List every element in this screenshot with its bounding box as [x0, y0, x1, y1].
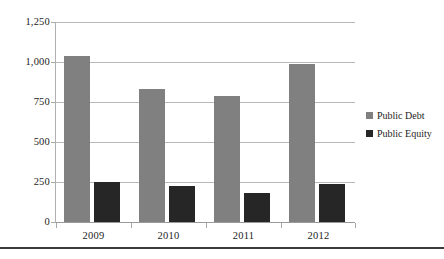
y-axis-tick-250	[51, 182, 55, 183]
bar-group-2012	[289, 22, 355, 222]
y-axis-label-1250: 1,250	[2, 17, 50, 27]
y-axis-label-0: 0	[2, 217, 50, 227]
y-axis-tick-750	[51, 102, 55, 103]
bar-2009-public-equity[interactable]	[94, 182, 120, 222]
x-axis-tick-3	[281, 223, 282, 228]
y-axis-labels: 1,250 1,000 750 500 250 0	[0, 0, 50, 259]
bar-2010-public-debt[interactable]	[139, 89, 165, 222]
legend-swatch-public-equity	[366, 130, 373, 137]
x-axis-label-2009: 2009	[56, 230, 131, 242]
legend-label-public-debt: Public Debt	[377, 110, 425, 121]
chart-legend: Public Debt Public Equity	[366, 108, 444, 144]
y-axis-tick-1250	[51, 22, 55, 23]
x-axis-label-2012: 2012	[281, 230, 356, 242]
y-axis-label-1000: 1,000	[2, 57, 50, 67]
x-axis-tick-end	[355, 223, 356, 228]
legend-item-public-debt[interactable]: Public Debt	[366, 108, 444, 123]
legend-item-public-equity[interactable]: Public Equity	[366, 126, 444, 141]
legend-swatch-public-debt	[366, 112, 373, 119]
y-axis-tick-500	[51, 142, 55, 143]
x-axis-label-2010: 2010	[131, 230, 206, 242]
legend-label-public-equity: Public Equity	[377, 128, 432, 139]
bar-groups	[56, 22, 355, 222]
bar-group-2010	[139, 22, 205, 222]
y-axis-label-750: 750	[2, 97, 50, 107]
bar-2012-public-equity[interactable]	[319, 184, 345, 222]
y-axis-label-500: 500	[2, 137, 50, 147]
bar-2011-public-debt[interactable]	[214, 96, 240, 222]
bar-2011-public-equity[interactable]	[244, 193, 270, 222]
footer-divider	[0, 247, 444, 249]
y-axis-label-250: 250	[2, 177, 50, 187]
x-axis-label-2011: 2011	[206, 230, 281, 242]
bar-chart-figure: 1,250 1,000 750 500 250 0	[0, 0, 444, 259]
bar-2009-public-debt[interactable]	[64, 56, 90, 222]
bar-2012-public-debt[interactable]	[289, 64, 315, 222]
bar-group-2009	[64, 22, 130, 222]
x-axis-tick-1	[131, 223, 132, 228]
bar-2010-public-equity[interactable]	[169, 186, 195, 222]
y-axis-tick-0	[51, 222, 55, 223]
x-axis-tick-2	[206, 223, 207, 228]
x-axis-tick-start	[56, 223, 57, 228]
y-axis-tick-1000	[51, 62, 55, 63]
bar-group-2011	[214, 22, 280, 222]
